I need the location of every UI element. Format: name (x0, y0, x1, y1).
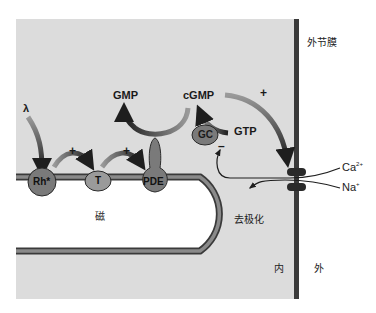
plus-t-pde: + (123, 145, 130, 157)
disc-label: 磁 (95, 212, 105, 222)
rh-label: Rh* (33, 177, 50, 187)
outer-membrane-label: 外节膜 (307, 38, 337, 48)
minus-gc: – (218, 140, 225, 152)
na-symbol: Na (342, 181, 356, 193)
sodium-ion-label: Na+ (342, 181, 360, 193)
na-charge: + (356, 181, 360, 187)
light-label: λ (23, 103, 29, 114)
gtp-label: GTP (234, 126, 257, 137)
ca-charge: 2+ (356, 161, 363, 167)
outer-segment-membrane (294, 19, 299, 299)
outside-label: 外 (314, 264, 324, 274)
calcium-ion-label: Ca2+ (342, 161, 363, 173)
plus-rh-t: + (69, 145, 76, 157)
gmp-label: GMP (113, 90, 138, 101)
ca-symbol: Ca (342, 161, 356, 173)
gc-label: GC (198, 130, 213, 140)
cgmp-label: cGMP (183, 90, 214, 101)
depolarization-label: 去极化 (234, 215, 264, 225)
plus-cgmp-channel: + (260, 87, 267, 99)
inside-label: 内 (274, 264, 284, 274)
transducin-label: T (95, 176, 101, 186)
pde-label: PDE (143, 177, 164, 187)
